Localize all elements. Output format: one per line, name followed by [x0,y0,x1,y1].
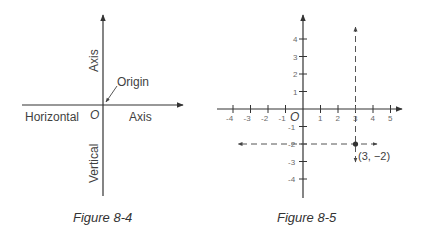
point-3-neg2 [353,141,358,146]
origin-label: Origin [117,75,149,89]
x-tick-label: -1 [279,114,287,123]
vertical-axis-label-top: Axis [87,49,101,72]
vertical-axis-label-bottom: Vertical [87,144,101,183]
origin-symbol: O [290,110,299,124]
point-label: (3, −2) [358,150,390,162]
figures-canvas: Axis Vertical Horizontal Axis O Origin F… [0,0,421,235]
y-tick-label: 4 [293,35,298,44]
figure-8-5-caption: Figure 8-5 [277,210,337,225]
y-tick-label: 3 [293,53,298,62]
horizontal-axis-label-left: Horizontal [25,110,79,124]
figure-8-5: -4 -3 -2 -1 1 2 3 4 5 1 2 3 4 -1 - [217,15,402,225]
y-tick-label: 1 [293,88,298,97]
x-axis-tick-labels: -4 -3 -2 -1 1 2 3 4 5 [226,114,393,123]
origin-pointer-arrow [106,86,117,102]
x-tick-label: -3 [244,114,252,123]
y-tick-label: 2 [293,70,298,79]
y-tick-label: -4 [288,175,296,184]
horizontal-axis-label-right: Axis [129,110,152,124]
x-tick-label: -2 [261,114,269,123]
x-tick-label: -4 [226,114,234,123]
x-tick-label: 2 [336,114,341,123]
x-tick-label: 1 [318,114,323,123]
origin-symbol: O [90,108,99,122]
y-tick-label: -3 [288,158,296,167]
x-tick-label: 5 [388,114,393,123]
figure-8-4: Axis Vertical Horizontal Axis O Origin F… [22,15,183,225]
x-tick-label: 4 [371,114,376,123]
figure-8-4-caption: Figure 8-4 [73,210,132,225]
